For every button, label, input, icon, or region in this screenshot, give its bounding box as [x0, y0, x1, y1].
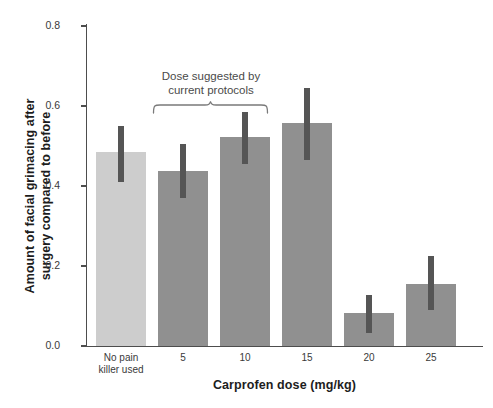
- x-axis-tick-label-line-1: 15: [301, 352, 312, 363]
- y-axis-tick-label: 0.6: [34, 100, 60, 110]
- x-axis-tick-label-line-1: 5: [180, 352, 186, 363]
- x-axis-tick-label-line-1: 25: [425, 352, 436, 363]
- error-bar: [180, 144, 186, 198]
- x-axis-tick-label: 25: [394, 352, 468, 364]
- annotation-line-1: Dose suggested by: [162, 70, 260, 82]
- x-axis-line: [86, 346, 483, 347]
- y-axis-tick-label: 0.4: [34, 180, 60, 190]
- error-bar: [428, 256, 434, 310]
- bar: [220, 137, 270, 346]
- x-axis-title: Carprofen dose (mg/kg): [86, 378, 483, 392]
- error-bar: [366, 295, 372, 333]
- annotation-brace-icon: [152, 101, 269, 114]
- annotation-line-2: current protocols: [168, 84, 254, 96]
- x-axis-tick-label-line-1: No pain: [104, 352, 138, 363]
- bar-chart-figure: Amount of facial grimacing after surgery…: [0, 0, 493, 408]
- x-axis-tick-label-line-2: killer used: [98, 364, 143, 375]
- y-axis-tick-label: 0.8: [34, 20, 60, 30]
- x-axis-tick-label-line-1: 10: [239, 352, 250, 363]
- y-axis-tick-label: 0.2: [34, 260, 60, 270]
- error-bar: [304, 88, 310, 160]
- x-axis-tick-label-line-1: 20: [363, 352, 374, 363]
- error-bar: [242, 112, 248, 164]
- error-bar: [118, 126, 124, 182]
- y-axis-tick-label: 0.0: [34, 340, 60, 350]
- annotation-dose-suggested: Dose suggested by current protocols: [136, 70, 286, 97]
- y-axis-ticks: 0.00.20.40.60.8: [0, 0, 78, 408]
